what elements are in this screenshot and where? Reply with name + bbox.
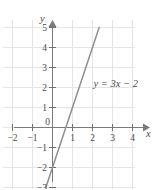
- y-tick-label: 5: [42, 23, 47, 33]
- y-tick-label: −3: [37, 183, 47, 189]
- y-tick-label: 3: [42, 63, 47, 73]
- y-tick-label: 4: [42, 43, 47, 53]
- origin-label: 0: [45, 117, 50, 127]
- y-tick-label: −1: [37, 143, 47, 153]
- graph-figure: −2−1123454321−1−2−3 0 y x y = 3x − 2: [0, 0, 156, 189]
- grid-lines: [3, 20, 135, 190]
- equation-annotation: y = 3x − 2: [93, 78, 139, 89]
- x-axis-label: x: [145, 128, 151, 139]
- x-tick-label: 4: [130, 133, 135, 143]
- y-axis-arrowhead: [49, 20, 57, 27]
- y-tick-label: −2: [37, 163, 47, 173]
- x-tick-label: 2: [90, 133, 95, 143]
- y-axis-label: y: [39, 13, 45, 24]
- x-tick-label: 3: [110, 133, 115, 143]
- coordinate-plane: −2−1123454321−1−2−3 0 y x y = 3x − 2: [0, 0, 156, 189]
- axes: [14, 20, 150, 182]
- x-tick-label: −2: [7, 133, 17, 143]
- y-tick-label: 2: [42, 83, 47, 93]
- x-tick-label: −1: [27, 133, 37, 143]
- x-tick-label: 1: [70, 133, 75, 143]
- y-tick-label: 1: [42, 103, 47, 113]
